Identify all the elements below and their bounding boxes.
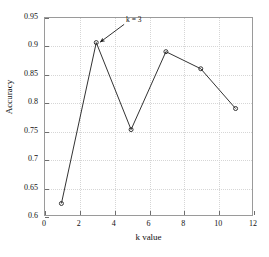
x-axis-tick-label: 2 — [66, 219, 92, 229]
x-axis-tick-label: 10 — [205, 219, 231, 229]
x-axis-tick — [45, 211, 46, 215]
x-axis-tick — [184, 211, 185, 215]
x-axis-tick-label: 4 — [101, 219, 127, 229]
y-axis-tick-label: 0.7 — [8, 154, 38, 164]
x-axis-label: k value — [44, 232, 253, 242]
y-axis-tick — [45, 217, 49, 218]
y-axis-tick — [45, 46, 49, 47]
gridline-vertical — [150, 18, 151, 215]
y-axis-tick-label: 0.9 — [8, 40, 38, 50]
x-axis-tick — [254, 211, 255, 215]
x-axis-tick — [115, 211, 116, 215]
gridline-horizontal — [45, 160, 252, 161]
y-axis-tick-label: 0.85 — [8, 69, 38, 79]
x-axis-tick-label: 6 — [136, 219, 162, 229]
x-axis-tick — [219, 211, 220, 215]
gridline-horizontal — [45, 189, 252, 190]
y-axis-tick — [45, 160, 49, 161]
gridline-vertical — [184, 18, 185, 215]
plot-area — [44, 17, 253, 216]
gridline-horizontal — [45, 103, 252, 104]
y-axis-tick — [45, 18, 49, 19]
gridline-horizontal — [45, 46, 252, 47]
gridline-vertical — [80, 18, 81, 215]
x-axis-tick — [150, 211, 151, 215]
x-axis-tick-label: 12 — [240, 219, 266, 229]
x-axis-tick — [80, 211, 81, 215]
gridline-vertical — [219, 18, 220, 215]
y-axis-tick — [45, 103, 49, 104]
y-axis-tick-label: 0.8 — [8, 97, 38, 107]
annotation-label: k = 3 — [126, 15, 141, 24]
gridline-horizontal — [45, 132, 252, 133]
y-axis-tick — [45, 75, 49, 76]
y-axis-tick — [45, 189, 49, 190]
gridline-horizontal — [45, 75, 252, 76]
x-axis-tick-label: 8 — [170, 219, 196, 229]
chart-figure: k value Accuracy 0246810120.60.650.70.75… — [0, 0, 269, 257]
y-axis-tick-label: 0.75 — [8, 126, 38, 136]
y-axis-tick-label: 0.65 — [8, 183, 38, 193]
y-axis-tick-label: 0.6 — [8, 211, 38, 221]
y-axis-tick-label: 0.95 — [8, 12, 38, 22]
y-axis-tick — [45, 132, 49, 133]
gridline-vertical — [115, 18, 116, 215]
